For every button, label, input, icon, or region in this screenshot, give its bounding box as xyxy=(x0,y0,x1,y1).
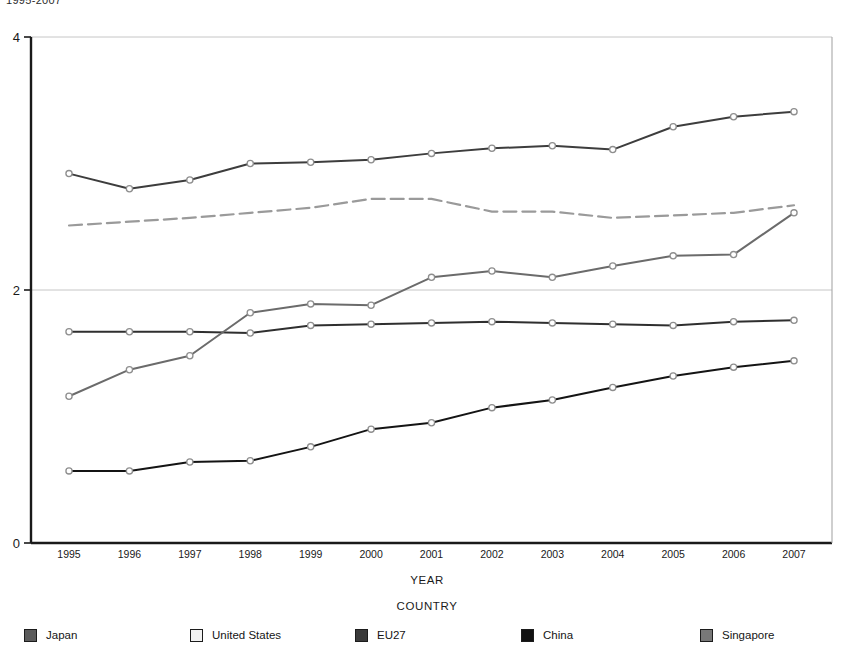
svg-text:0: 0 xyxy=(13,536,20,551)
x-axis-ticks: 1995199619971998199920002001200220032004… xyxy=(57,548,806,560)
legend-swatch-icon xyxy=(190,629,203,642)
svg-text:1999: 1999 xyxy=(299,548,323,560)
data-point xyxy=(549,320,555,326)
legend-swatch-icon xyxy=(355,629,368,642)
data-point xyxy=(730,319,736,325)
data-point xyxy=(549,143,555,149)
line-chart: 1995-2007 024 19951996199719981999200020… xyxy=(0,0,854,669)
legend-title: COUNTRY xyxy=(0,600,854,612)
data-point xyxy=(308,159,314,165)
data-point xyxy=(126,367,132,373)
data-point xyxy=(368,321,374,327)
data-point xyxy=(730,364,736,370)
gridlines xyxy=(31,37,832,290)
series-line-singapore xyxy=(69,213,794,396)
legend-label: China xyxy=(543,629,573,641)
legend-item-united-states[interactable]: United States xyxy=(190,626,281,644)
data-point xyxy=(66,171,72,177)
data-point xyxy=(368,302,374,308)
data-point xyxy=(610,321,616,327)
data-point xyxy=(489,405,495,411)
data-point xyxy=(247,160,253,166)
legend-item-eu27[interactable]: EU27 xyxy=(355,626,406,644)
data-point xyxy=(670,124,676,130)
data-point xyxy=(670,322,676,328)
legend-label: Japan xyxy=(46,629,77,641)
data-point xyxy=(610,263,616,269)
data-point xyxy=(187,459,193,465)
legend: JapanUnited StatesEU27ChinaSingapore xyxy=(0,626,854,650)
data-point xyxy=(247,330,253,336)
data-point xyxy=(791,210,797,216)
legend-item-japan[interactable]: Japan xyxy=(24,626,77,644)
svg-text:2: 2 xyxy=(13,283,20,298)
data-point xyxy=(368,157,374,163)
data-point xyxy=(428,320,434,326)
data-point xyxy=(428,150,434,156)
series-line-china xyxy=(69,361,794,471)
data-point xyxy=(247,458,253,464)
y-axis-ticks: 024 xyxy=(13,30,31,551)
data-point xyxy=(489,319,495,325)
data-point xyxy=(670,373,676,379)
data-point xyxy=(428,420,434,426)
data-point xyxy=(428,274,434,280)
legend-item-china[interactable]: China xyxy=(521,626,573,644)
svg-text:1998: 1998 xyxy=(239,548,263,560)
data-point xyxy=(489,268,495,274)
svg-text:2007: 2007 xyxy=(782,548,806,560)
data-point xyxy=(730,251,736,257)
svg-text:2006: 2006 xyxy=(722,548,746,560)
svg-text:2002: 2002 xyxy=(480,548,504,560)
svg-text:4: 4 xyxy=(13,30,20,45)
data-point xyxy=(247,310,253,316)
plot-area: 024 199519961997199819992000200120022003… xyxy=(0,0,854,600)
svg-text:2000: 2000 xyxy=(359,548,383,560)
data-point xyxy=(610,384,616,390)
series-layer xyxy=(66,109,797,474)
legend-swatch-icon xyxy=(700,629,713,642)
svg-text:2001: 2001 xyxy=(420,548,444,560)
data-point xyxy=(791,317,797,323)
x-axis-caption: YEAR xyxy=(0,574,854,586)
data-point xyxy=(126,186,132,192)
svg-text:1995: 1995 xyxy=(57,548,81,560)
legend-swatch-icon xyxy=(24,629,37,642)
data-point xyxy=(308,444,314,450)
data-point xyxy=(187,177,193,183)
data-point xyxy=(791,109,797,115)
legend-label: United States xyxy=(212,629,281,641)
legend-item-singapore[interactable]: Singapore xyxy=(700,626,774,644)
data-point xyxy=(66,468,72,474)
data-point xyxy=(730,114,736,120)
data-point xyxy=(610,146,616,152)
data-point xyxy=(489,145,495,151)
data-point xyxy=(126,329,132,335)
data-point xyxy=(126,468,132,474)
data-point xyxy=(549,397,555,403)
data-point xyxy=(308,301,314,307)
data-point xyxy=(187,329,193,335)
data-point xyxy=(187,353,193,359)
data-point xyxy=(368,426,374,432)
legend-label: Singapore xyxy=(722,629,774,641)
svg-text:1996: 1996 xyxy=(118,548,142,560)
svg-text:2003: 2003 xyxy=(541,548,565,560)
data-point xyxy=(670,253,676,259)
svg-text:2004: 2004 xyxy=(601,548,625,560)
series-line-united-states xyxy=(69,199,794,226)
legend-label: EU27 xyxy=(377,629,406,641)
svg-text:1997: 1997 xyxy=(178,548,202,560)
data-point xyxy=(549,274,555,280)
svg-text:2005: 2005 xyxy=(661,548,685,560)
legend-swatch-icon xyxy=(521,629,534,642)
data-point xyxy=(308,322,314,328)
data-point xyxy=(66,393,72,399)
data-point xyxy=(66,329,72,335)
data-point xyxy=(791,358,797,364)
